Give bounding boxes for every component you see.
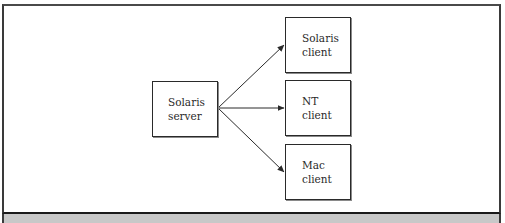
node-label-line-1: NT	[302, 94, 350, 108]
node-label-line-1: Solaris	[302, 31, 350, 45]
node-solaris-client: Solaris client	[285, 17, 351, 73]
node-label-line-1: Mac	[302, 158, 350, 172]
node-label-line-2: server	[168, 109, 217, 123]
node-label-line-2: client	[302, 108, 350, 122]
node-label-line-2: client	[302, 45, 350, 59]
node-label-line-2: client	[302, 172, 350, 186]
node-solaris-server: Solaris server	[152, 81, 218, 137]
node-nt-client: NT client	[285, 80, 351, 136]
figure-frame	[2, 4, 501, 214]
node-label-line-1: Solaris	[168, 95, 217, 109]
node-mac-client: Mac client	[285, 144, 351, 200]
caption-band	[2, 214, 501, 223]
